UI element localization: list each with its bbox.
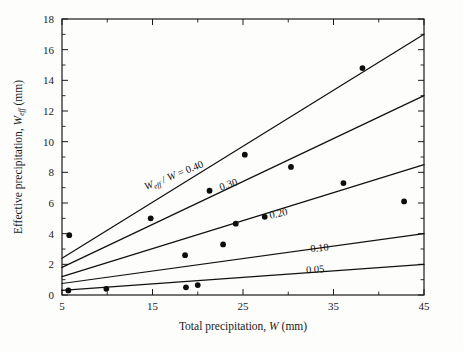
curve-label: 0.20 bbox=[268, 206, 288, 221]
y-tick-label: 2 bbox=[49, 258, 55, 270]
data-point bbox=[220, 242, 226, 248]
tick-marks bbox=[62, 19, 424, 295]
data-point bbox=[242, 152, 248, 158]
scatter-plot: 515253545024681012141618 Weff / W = 0.40… bbox=[0, 0, 463, 351]
data-point bbox=[401, 199, 407, 205]
data-point bbox=[262, 214, 268, 220]
axis-frame bbox=[62, 19, 424, 295]
data-point bbox=[103, 286, 109, 292]
y-tick-label: 12 bbox=[43, 105, 54, 117]
x-tick-label: 45 bbox=[419, 300, 431, 312]
y-tick-label: 6 bbox=[49, 197, 55, 209]
chart-figure: 515253545024681012141618 Weff / W = 0.40… bbox=[0, 0, 463, 351]
ratio-trend-lines bbox=[62, 34, 424, 290]
curve-label: 0.05 bbox=[306, 263, 325, 275]
x-tick-label: 5 bbox=[59, 300, 65, 312]
y-tick-label: 10 bbox=[43, 136, 55, 148]
data-point bbox=[195, 282, 201, 288]
data-point bbox=[341, 180, 347, 186]
x-axis-title: Total precipitation, W (mm) bbox=[179, 320, 307, 333]
curve-annotations: Weff / W = 0.400.300.200.100.05 bbox=[143, 158, 330, 275]
data-point bbox=[148, 215, 154, 221]
data-point bbox=[288, 164, 294, 170]
y-tick-label: 16 bbox=[43, 44, 55, 56]
data-point bbox=[233, 221, 239, 227]
data-point bbox=[183, 284, 189, 290]
tick-labels: 515253545024681012141618 bbox=[43, 13, 430, 312]
y-tick-label: 4 bbox=[49, 228, 55, 240]
ratio-line-0.05 bbox=[62, 264, 424, 290]
x-tick-label: 35 bbox=[328, 300, 340, 312]
data-point bbox=[66, 232, 72, 238]
y-tick-label: 8 bbox=[49, 166, 55, 178]
y-tick-label: 14 bbox=[43, 74, 55, 86]
y-tick-label: 0 bbox=[49, 289, 55, 301]
data-point bbox=[182, 252, 188, 258]
data-point bbox=[65, 288, 71, 294]
data-point bbox=[360, 65, 366, 71]
ratio-line-0.40 bbox=[62, 34, 424, 258]
curve-label: 0.30 bbox=[218, 176, 239, 192]
y-axis-title: Effective precipitation, Weff (mm) bbox=[12, 80, 26, 234]
y-tick-label: 18 bbox=[43, 13, 55, 25]
x-tick-label: 25 bbox=[238, 300, 250, 312]
data-point bbox=[207, 188, 213, 194]
x-tick-label: 15 bbox=[147, 300, 159, 312]
curve-label: 0.10 bbox=[310, 241, 329, 254]
